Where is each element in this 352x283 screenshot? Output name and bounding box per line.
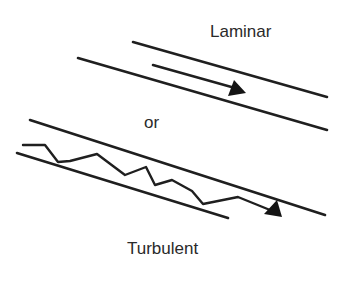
- turbulent-upper-wall: [30, 120, 325, 215]
- laminar-lower-wall: [78, 58, 327, 130]
- turbulent-lower-wall: [17, 153, 228, 218]
- turbulent-panel: Turbulent: [17, 120, 325, 258]
- flow-diagram: Laminar or Turbulent: [0, 0, 352, 283]
- turbulent-label: Turbulent: [127, 239, 198, 258]
- laminar-label: Laminar: [210, 22, 272, 41]
- laminar-panel: Laminar: [78, 22, 327, 130]
- laminar-upper-wall: [133, 42, 327, 97]
- or-label: or: [144, 113, 159, 132]
- turbulent-flow-line: [23, 145, 270, 210]
- flow-diagram-svg: Laminar or Turbulent: [0, 0, 352, 283]
